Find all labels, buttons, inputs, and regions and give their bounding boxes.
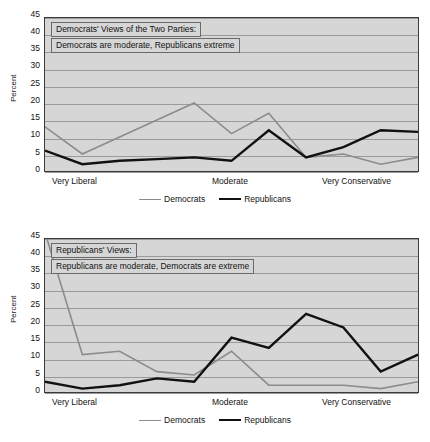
y-tick: 20 [16, 96, 40, 104]
y-axis-title-2: Percent [0, 255, 8, 283]
y-tick: 25 [16, 79, 40, 87]
legend-label-republicans: Republicans [244, 415, 291, 425]
chart-title-line-1: Democrats' Views of the Two Parties: [51, 22, 201, 37]
legend-item-democrats-2: Democrats [139, 415, 205, 425]
y-tick: 5 [16, 148, 40, 156]
legend-label-democrats: Democrats [164, 194, 205, 204]
chart-title-line-2: Republicans' Views: [51, 243, 137, 258]
y-tick: 0 [16, 386, 40, 394]
x-tick-moderate: Moderate [212, 397, 248, 407]
legend-swatch-republicans-icon [219, 419, 241, 421]
y-tick: 0 [16, 165, 40, 173]
x-tick-moderate: Moderate [212, 176, 248, 186]
y-tick: 40 [16, 27, 40, 35]
y-axis-title-1: Percent [0, 34, 8, 62]
chart-subtitle-line-2: Republicans are moderate, Democrats are … [51, 259, 254, 274]
legend-1: Democrats Republicans [0, 194, 430, 204]
x-tick-very-conservative: Very Conservative [322, 397, 391, 407]
gridline [45, 393, 418, 394]
legend-2: Democrats Republicans [0, 415, 430, 425]
chart-subtitle-line-1: Democrats are moderate, Republicans extr… [51, 38, 240, 53]
y-tick: 5 [16, 369, 40, 377]
y-tick: 15 [16, 334, 40, 342]
y-tick: 40 [16, 248, 40, 256]
y-tick: 35 [16, 44, 40, 52]
legend-swatch-democrats-icon [139, 420, 161, 421]
x-tick-very-conservative: Very Conservative [322, 176, 391, 186]
y-tick: 35 [16, 265, 40, 273]
y-tick: 10 [16, 351, 40, 359]
y-tick: 15 [16, 113, 40, 121]
y-axis-ticks-1: 45 40 35 30 25 20 15 10 5 0 [16, 10, 40, 178]
legend-item-republicans-2: Republicans [219, 415, 291, 425]
y-tick: 20 [16, 317, 40, 325]
x-axis-ticks-2: Very Liberal Moderate Very Conservative [44, 397, 419, 411]
x-tick-very-liberal: Very Liberal [52, 397, 97, 407]
legend-item-democrats-1: Democrats [139, 194, 205, 204]
chart-republicans-views: Percent 45 40 35 30 25 20 15 10 5 0 Repu… [0, 221, 430, 442]
x-tick-very-liberal: Very Liberal [52, 176, 97, 186]
y-tick: 45 [16, 231, 40, 239]
y-tick: 25 [16, 300, 40, 308]
legend-swatch-democrats-icon [139, 199, 161, 200]
chart-democrats-views: Percent 45 40 35 30 25 20 15 10 5 0 Demo… [0, 0, 430, 221]
y-tick: 30 [16, 61, 40, 69]
legend-label-democrats: Democrats [164, 415, 205, 425]
x-axis-ticks-1: Very Liberal Moderate Very Conservative [44, 176, 419, 190]
y-tick: 30 [16, 282, 40, 290]
y-tick: 45 [16, 10, 40, 18]
plot-area-1: Democrats' Views of the Two Parties: Dem… [44, 17, 419, 172]
chart-page: Percent 45 40 35 30 25 20 15 10 5 0 Demo… [0, 0, 430, 442]
plot-area-2: Republicans' Views: Republicans are mode… [44, 238, 419, 393]
series-line-democrats-1 [45, 103, 418, 164]
legend-swatch-republicans-icon [219, 198, 241, 200]
legend-item-republicans-1: Republicans [219, 194, 291, 204]
y-tick: 10 [16, 130, 40, 138]
gridline [45, 172, 418, 173]
legend-label-republicans: Republicans [244, 194, 291, 204]
y-axis-ticks-2: 45 40 35 30 25 20 15 10 5 0 [16, 231, 40, 399]
